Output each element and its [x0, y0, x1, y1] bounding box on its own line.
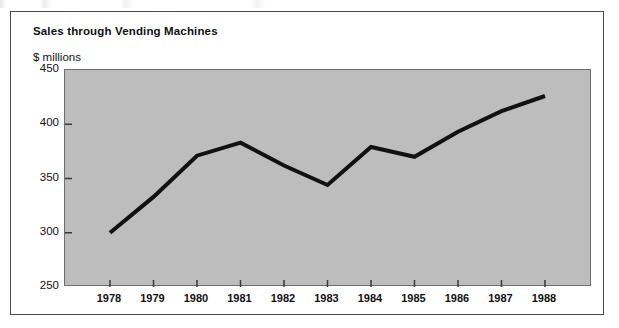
plot-area	[64, 69, 591, 286]
x-tick-label: 1983	[305, 292, 349, 304]
y-axis-tick-marks	[65, 124, 72, 233]
y-tick-label: 450	[15, 62, 59, 74]
y-tick-label: 400	[15, 116, 59, 128]
x-axis-tick-marks	[110, 280, 545, 287]
scan-artifact	[0, 0, 619, 8]
x-tick-label: 1982	[261, 292, 305, 304]
x-tick-label: 1979	[131, 292, 175, 304]
line-chart-svg	[65, 70, 592, 287]
sales-line-series	[110, 96, 545, 233]
x-tick-label: 1978	[87, 292, 131, 304]
y-tick-label: 250	[15, 279, 59, 291]
x-tick-label: 1987	[479, 292, 523, 304]
x-tick-label: 1985	[392, 292, 436, 304]
x-tick-label: 1984	[348, 292, 392, 304]
chart-figure-frame: Sales through Vending Machines $ million…	[10, 11, 604, 315]
x-tick-label: 1986	[435, 292, 479, 304]
y-tick-label: 350	[15, 171, 59, 183]
chart-title: Sales through Vending Machines	[33, 25, 218, 37]
x-tick-label: 1981	[218, 292, 262, 304]
y-tick-label: 300	[15, 225, 59, 237]
x-tick-label: 1988	[522, 292, 566, 304]
x-tick-label: 1980	[174, 292, 218, 304]
